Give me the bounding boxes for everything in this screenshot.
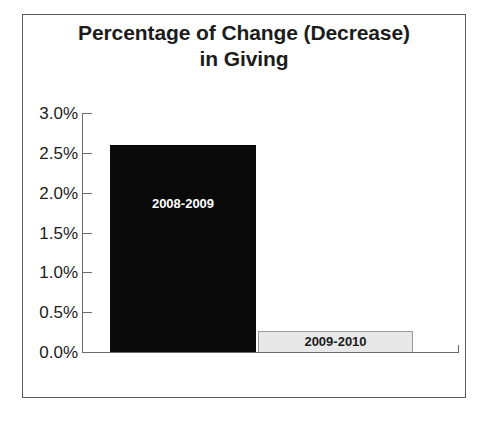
y-axis-tick-3.0 — [83, 113, 92, 114]
bar-label-2009-2010: 2009-2010 — [258, 335, 413, 348]
category-axis-line — [82, 352, 459, 353]
bar-label-2008-2009: 2008-2009 — [110, 197, 256, 210]
y-axis-label-1.5: 1.5% — [16, 225, 78, 242]
y-axis-label-0.5: 0.5% — [16, 304, 78, 321]
y-axis-tick-1.5 — [83, 233, 92, 234]
y-axis-label-3.0: 3.0% — [16, 105, 78, 122]
y-axis-tick-2.5 — [83, 153, 92, 154]
y-axis-label-2.0: 2.0% — [16, 185, 78, 202]
y-axis-label-1.0: 1.0% — [16, 264, 78, 281]
y-axis-label-0.0: 0.0% — [16, 344, 78, 361]
y-axis-label-2.5: 2.5% — [16, 145, 78, 162]
category-axis-end-tick — [458, 345, 459, 353]
y-axis-tick-2.0 — [83, 193, 92, 194]
plot-area: 3.0% 2.5% 2.0% 1.5% 1.0% 0.5% 0.0% 2008-… — [0, 0, 489, 421]
bar-2008-2009[interactable] — [110, 145, 256, 352]
y-axis-tick-0.5 — [83, 312, 92, 313]
y-axis-tick-1.0 — [83, 272, 92, 273]
